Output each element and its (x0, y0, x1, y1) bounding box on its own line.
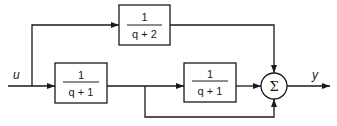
block-g1-denominator: q + 1 (69, 86, 94, 98)
output-label-y: y (311, 68, 319, 82)
input-label-u: u (13, 68, 20, 82)
block-g1-transfer-function: 1 q + 1 (55, 63, 107, 103)
block-diagram: 1 q + 2 1 q + 1 1 q + 1 Σ u y (0, 0, 337, 126)
block-g2-transfer-function: 1 q + 1 (184, 63, 236, 102)
sigma-symbol: Σ (269, 79, 278, 94)
block-g2-numerator: 1 (207, 68, 213, 80)
block-top-denominator: q + 2 (132, 28, 157, 40)
summing-junction: Σ (261, 73, 287, 99)
block-g2-denominator: q + 1 (198, 85, 223, 97)
block-top-transfer-function: 1 q + 2 (119, 5, 170, 45)
block-g1-numerator: 1 (78, 69, 84, 81)
block-top-numerator: 1 (141, 11, 147, 23)
